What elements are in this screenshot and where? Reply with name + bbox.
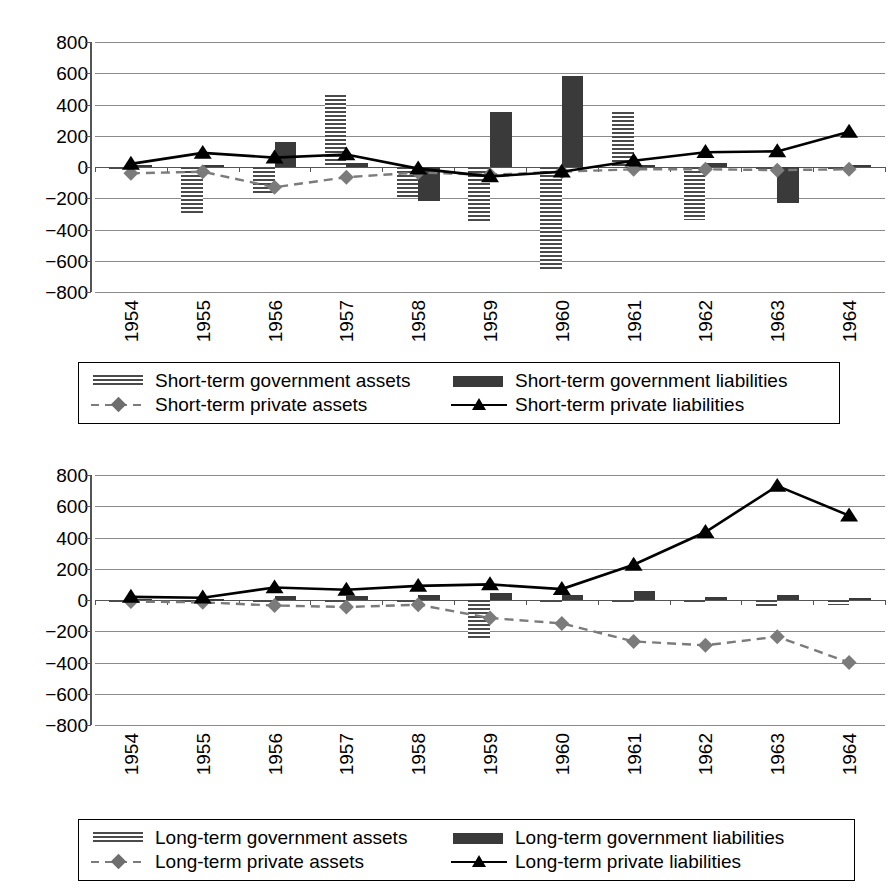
x-tick-label: 1957 [336, 733, 358, 775]
legend-label: Short-term private assets [155, 394, 367, 416]
y-axis-labels-bottom: 8006004002000−200−400−600−800 [0, 455, 88, 745]
y-axis-tick [85, 600, 91, 601]
legend-label: Long-term private liabilities [515, 851, 741, 873]
marker-triangle [696, 524, 714, 538]
y-axis-tick [85, 42, 91, 43]
y-tick-label: 800 [56, 466, 88, 485]
legend-top: Short-term government assetsShort-term g… [79, 363, 839, 423]
short-term-chart: 8006004002000−200−400−600−800 1954195519… [0, 0, 893, 440]
x-tick-label: 1961 [624, 733, 646, 775]
y-axis-tick [85, 663, 91, 664]
legend-item: Short-term private assets [91, 394, 451, 416]
plot-area-top [95, 0, 885, 296]
y-axis-tick [85, 105, 91, 106]
dashed-diamond-line-swatch-icon [91, 396, 147, 414]
x-tick-label: 1961 [624, 300, 646, 342]
lines-bottom [95, 455, 885, 735]
legend-item: Long-term government assets [91, 827, 451, 849]
x-tick-label: 1954 [121, 300, 143, 342]
y-tick-label: 400 [56, 95, 88, 114]
x-axis-tick [885, 167, 886, 172]
y-tick-label: 600 [56, 64, 88, 83]
x-tick-label: 1963 [767, 733, 789, 775]
marker-diamond [698, 638, 713, 653]
solid-bar-swatch-icon [451, 829, 507, 847]
solid-triangle-line-swatch-icon [451, 853, 507, 871]
x-tick-label: 1963 [767, 300, 789, 342]
marker-triangle [194, 145, 212, 159]
long-term-chart: 8006004002000−200−400−600−800 1954195519… [0, 455, 893, 896]
legend-item: Short-term government liabilities [451, 370, 831, 392]
legend-item: Long-term private liabilities [451, 851, 831, 873]
y-tick-label: −200 [45, 189, 88, 208]
y-tick-label: −600 [45, 684, 88, 703]
y-tick-label: −400 [45, 220, 88, 239]
legend-item: Long-term government liabilities [451, 827, 831, 849]
y-axis-tick [85, 198, 91, 199]
plot-area-bottom [95, 455, 885, 729]
legend-item: Short-term private liabilities [451, 394, 831, 416]
marker-diamond [842, 655, 857, 670]
x-tick-label: 1959 [480, 733, 502, 775]
marker-diamond [411, 597, 426, 612]
x-tick-label: 1964 [839, 300, 861, 342]
lines-top [95, 0, 885, 302]
x-tick-label: 1958 [408, 300, 430, 342]
legend-item: Short-term government assets [91, 370, 451, 392]
y-axis-tick [85, 538, 91, 539]
marker-diamond [554, 616, 569, 631]
y-axis-tick [85, 73, 91, 74]
x-axis-labels-top: 1954195519561957195819591960196119621963… [95, 300, 885, 370]
x-tick-label: 1954 [121, 733, 143, 775]
marker-diamond [267, 180, 282, 195]
y-tick-label: −400 [45, 653, 88, 672]
solid-bar-swatch-icon [451, 372, 507, 390]
marker-diamond [626, 634, 641, 649]
x-tick-label: 1955 [193, 733, 215, 775]
x-tick-label: 1956 [265, 300, 287, 342]
y-tick-label: 200 [56, 559, 88, 578]
hatched-bar-swatch-icon [91, 829, 147, 847]
y-axis-tick [85, 136, 91, 137]
marker-diamond [770, 629, 785, 644]
legend-label: Long-term government assets [155, 827, 407, 849]
marker-diamond [770, 163, 785, 178]
y-axis-tick [85, 694, 91, 695]
x-tick-label: 1955 [193, 300, 215, 342]
legend-label: Long-term government liabilities [515, 827, 784, 849]
dashed-diamond-line-swatch-icon [91, 853, 147, 871]
legend-bottom: Long-term government assetsLong-term gov… [79, 820, 854, 880]
y-tick-label: −600 [45, 251, 88, 270]
y-axis-tick [85, 167, 91, 168]
y-axis-tick [85, 506, 91, 507]
y-axis-labels-top: 8006004002000−200−400−600−800 [0, 0, 88, 312]
y-tick-label: 800 [56, 33, 88, 52]
hatched-bar-swatch-icon [91, 372, 147, 390]
y-axis-tick [85, 631, 91, 632]
y-tick-label: −800 [45, 283, 88, 302]
marker-triangle [266, 579, 284, 593]
marker-diamond [842, 162, 857, 177]
x-tick-label: 1960 [552, 733, 574, 775]
solid-triangle-line-swatch-icon [451, 396, 507, 414]
x-tick-label: 1958 [408, 733, 430, 775]
y-tick-label: −200 [45, 622, 88, 641]
marker-diamond [483, 610, 498, 625]
y-tick-label: −800 [45, 716, 88, 735]
marker-triangle [337, 146, 355, 160]
y-axis-tick [85, 725, 91, 726]
x-tick-label: 1957 [336, 300, 358, 342]
x-tick-label: 1956 [265, 733, 287, 775]
legend-label: Short-term private liabilities [515, 394, 744, 416]
x-tick-label: 1964 [839, 733, 861, 775]
x-tick-label: 1962 [695, 300, 717, 342]
legend-item: Long-term private assets [91, 851, 451, 873]
y-axis-tick [85, 569, 91, 570]
marker-diamond [267, 598, 282, 613]
marker-diamond [698, 162, 713, 177]
marker-diamond [339, 600, 354, 615]
marker-triangle [840, 124, 858, 138]
y-tick-label: 200 [56, 126, 88, 145]
legend-label: Short-term government assets [155, 370, 411, 392]
legend-label: Long-term private assets [155, 851, 364, 873]
